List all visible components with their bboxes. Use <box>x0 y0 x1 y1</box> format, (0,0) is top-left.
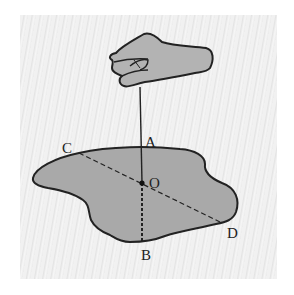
label-D: D <box>227 225 238 241</box>
label-B: B <box>141 247 151 263</box>
hand-icon <box>110 33 213 86</box>
suspension-diagram: A C O D B <box>0 0 294 295</box>
irregular-plate <box>33 147 238 242</box>
label-O: O <box>149 175 160 191</box>
label-A: A <box>145 134 156 150</box>
label-C: C <box>62 140 72 156</box>
point-O <box>139 180 144 185</box>
